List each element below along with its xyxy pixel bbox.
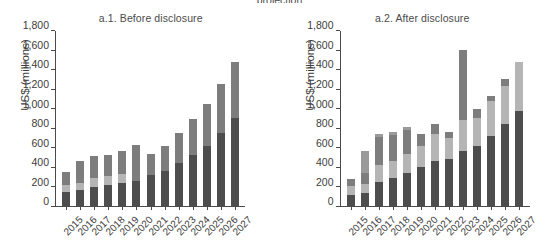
x-tick: [449, 206, 450, 210]
stacked-bar[interactable]: [231, 62, 239, 206]
bar-segment-segment-3-medium: [459, 50, 467, 120]
bar-segment-segment-3-medium: [431, 124, 439, 133]
stacked-bar[interactable]: [132, 145, 140, 206]
stacked-bar[interactable]: [175, 133, 183, 206]
stacked-bar[interactable]: [76, 161, 84, 206]
x-tick: [365, 206, 366, 210]
bar-segment-segment-1-dark: [231, 118, 239, 206]
bar-segment-segment-2-light: [515, 62, 523, 111]
x-tick: [435, 206, 436, 210]
x-tick: [66, 206, 67, 210]
x-label-slot: 2019: [400, 212, 414, 246]
bar-segment-segment-3-medium: [403, 130, 411, 154]
y-tick-label: 1,600: [307, 39, 333, 51]
y-tick: [51, 108, 55, 109]
x-label-slot: 2020: [129, 212, 143, 246]
x-tick: [477, 206, 478, 210]
bar-segment-segment-1-dark: [403, 173, 411, 206]
y-tick-label: 1,800: [23, 19, 49, 31]
stacked-bar[interactable]: [403, 127, 411, 206]
x-tick: [407, 206, 408, 210]
stacked-bar[interactable]: [62, 172, 70, 206]
y-tick: [51, 30, 55, 31]
x-tick: [421, 206, 422, 210]
bar-segment-segment-2-light: [90, 178, 98, 187]
bar-slot: [73, 31, 87, 206]
x-label-slot: 2018: [386, 212, 400, 246]
bar-group: [341, 31, 530, 206]
stacked-bar[interactable]: [161, 146, 169, 206]
bar-slot: [470, 31, 484, 206]
bar-segment-segment-3-medium: [361, 173, 369, 184]
bar-segment-segment-2-light: [389, 161, 397, 179]
y-tick: [336, 186, 340, 187]
x-label-slot: 2026: [214, 212, 228, 246]
x-label-slot: 2022: [442, 212, 456, 246]
bar-slot: [484, 31, 498, 206]
stacked-bar[interactable]: [104, 154, 112, 206]
stacked-bar[interactable]: [473, 109, 481, 206]
bar-segment-segment-1-dark: [361, 193, 369, 206]
stacked-bar[interactable]: [389, 132, 397, 206]
bar-segment-segment-3-medium: [347, 179, 355, 186]
bar-slot: [498, 31, 512, 206]
x-label-slot: 2021: [428, 212, 442, 246]
x-label-slot: 2019: [115, 212, 129, 246]
stacked-bar[interactable]: [431, 124, 439, 206]
bar-segment-segment-2-light: [62, 185, 70, 192]
x-axis-labels: 2015201620172018201920202021202220232024…: [56, 212, 245, 246]
stacked-bar[interactable]: [347, 179, 355, 206]
x-tick-label: 2027: [230, 214, 254, 238]
bar-segment-segment-1-dark: [473, 146, 481, 206]
x-tick: [94, 206, 95, 210]
bar-segment-segment-1-dark: [347, 195, 355, 206]
bar-segment-segment-3-medium: [217, 84, 225, 133]
x-axis-labels: 2015201620172018201920202021202220232024…: [341, 212, 530, 246]
stacked-bar[interactable]: [118, 151, 126, 206]
x-tick: [393, 206, 394, 210]
bar-slot: [115, 31, 129, 206]
bar-segment-segment-3-medium: [417, 134, 425, 146]
y-tick-label: 800: [31, 117, 49, 129]
bar-segment-segment-2-light: [403, 154, 411, 172]
stacked-bar[interactable]: [445, 132, 453, 206]
bar-segment-segment-2-light: [473, 118, 481, 146]
y-tick: [51, 89, 55, 90]
bar-slot: [186, 31, 200, 206]
x-label-slot: 2025: [484, 212, 498, 246]
y-tick: [336, 108, 340, 109]
stacked-bar[interactable]: [217, 84, 225, 206]
stacked-bar[interactable]: [361, 151, 369, 206]
bar-segment-segment-1-dark: [217, 133, 225, 206]
bar-segment-segment-1-dark: [161, 171, 169, 206]
bar-segment-segment-3-medium: [104, 155, 112, 176]
stacked-bar[interactable]: [90, 156, 98, 206]
stacked-bar[interactable]: [459, 49, 467, 206]
stacked-bar[interactable]: [501, 79, 509, 206]
stacked-bar[interactable]: [189, 119, 197, 207]
x-tick: [122, 206, 123, 210]
bar-segment-segment-1-dark: [104, 185, 112, 206]
stacked-bar[interactable]: [487, 96, 495, 206]
x-label-slot: 2025: [200, 212, 214, 246]
y-tick-label: 200: [31, 176, 49, 188]
stacked-bar[interactable]: [375, 134, 383, 206]
stacked-bar[interactable]: [203, 104, 211, 206]
x-tick: [193, 206, 194, 210]
x-tick: [151, 206, 152, 210]
x-tick: [221, 206, 222, 210]
bar-segment-segment-1-dark: [118, 183, 126, 206]
bar-slot: [214, 31, 228, 206]
bar-segment-segment-2-light: [118, 174, 126, 182]
stacked-bar[interactable]: [147, 154, 155, 207]
stacked-bar[interactable]: [417, 134, 425, 206]
bar-slot: [414, 31, 428, 206]
stacked-bar[interactable]: [515, 62, 523, 206]
y-tick-label: 600: [316, 137, 334, 149]
plot-area: 02004006008001,0001,2001,4001,6001,80020…: [340, 31, 530, 207]
x-tick: [136, 206, 137, 210]
bar-segment-segment-3-medium: [132, 145, 140, 180]
x-label-slot: 2024: [470, 212, 484, 246]
bar-slot: [129, 31, 143, 206]
x-label-slot: 2027: [512, 212, 526, 246]
